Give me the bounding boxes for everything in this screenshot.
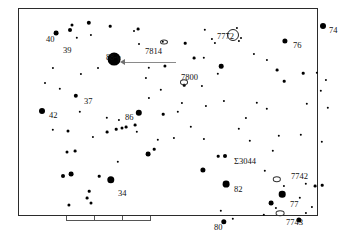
star-marker [115,128,118,131]
star-marker [134,124,137,127]
star-marker [74,150,77,153]
star-marker [204,29,206,31]
star-marker [184,42,187,45]
star-marker [107,176,114,183]
star-marker [314,185,317,188]
star-marker [87,21,91,25]
star-marker [217,155,220,158]
star-marker [269,201,274,206]
star-marker [76,37,78,39]
star-marker [223,154,227,158]
star-marker [283,80,286,83]
star-marker [300,134,302,136]
star-marker [253,53,255,55]
star-marker [125,126,128,129]
star-marker [279,191,286,198]
star-marker [80,73,82,75]
star-marker [153,148,156,151]
star-marker [163,64,166,67]
star-marker [256,102,258,104]
star-marker [193,57,196,60]
star-marker [79,111,81,113]
star-marker [181,102,183,104]
label-star-42: 42 [49,111,58,120]
star-marker [117,161,119,163]
label-star-39: 39 [63,46,72,55]
star-marker [203,57,205,59]
star-marker [306,103,308,105]
label-star-37: 37 [84,97,93,106]
star-marker [200,167,205,172]
annotation-arrow-head [120,59,125,65]
star-marker [275,207,277,209]
star-marker [223,100,225,102]
galaxy-marker [160,39,168,44]
star-marker [276,69,279,72]
star-marker [266,108,268,110]
star-marker [52,67,54,69]
star-marker [203,138,205,140]
scale-bar-tick [150,216,151,221]
label-ngc-7814: 7814 [145,47,162,56]
star-marker [97,67,99,69]
star-marker [305,183,307,185]
star-marker [320,90,322,92]
star-marker [137,28,140,31]
star-marker [236,27,238,29]
star-marker [66,151,69,154]
scale-bar-tick [94,216,95,221]
star-marker [118,119,120,121]
star-marker [245,117,247,119]
star-marker [327,107,329,109]
star-marker [305,212,307,214]
star-marker [316,72,318,74]
star-marker [98,175,101,178]
galaxy-marker [273,176,281,182]
label-star-40: 40 [46,35,55,44]
star-marker [272,150,274,152]
star-marker [240,37,242,39]
star-marker [121,127,124,130]
star-marker [238,128,240,130]
star-marker [92,136,94,138]
label-ngc-7800: 7800 [181,73,198,82]
label-star-74: 74 [329,26,338,35]
star-marker [88,190,91,193]
label-star-88-gamma: 88-γ [106,54,120,62]
star-marker [39,108,45,114]
label-double-star: Σ3044 [234,157,256,166]
star-marker [67,203,70,206]
star-marker [68,28,72,32]
scale-bar-tick [66,216,67,221]
star-marker [264,170,266,172]
star-marker [278,135,280,137]
star-marker [109,25,112,28]
star-marker [160,89,162,91]
star-marker [282,38,287,43]
star-marker [145,77,147,79]
star-marker [214,42,216,44]
star-marker [44,82,46,84]
star-marker [220,210,222,212]
star-marker [320,23,326,29]
star-marker [249,140,251,142]
star-marker [133,30,135,32]
label-ngc-7743: 7743 [286,218,303,227]
star-marker [106,131,109,134]
scale-bar [66,214,150,222]
star-marker [71,24,74,27]
label-star-80: 80 [214,223,223,232]
star-marker [217,73,219,75]
star-marker [61,174,65,178]
star-marker [148,67,150,69]
label-ngc-7742: 7742 [291,172,308,181]
star-marker [136,131,138,133]
star-marker [106,117,108,119]
star-marker [162,113,165,116]
star-marker [136,110,142,116]
star-marker [283,185,285,187]
star-marker [59,88,61,90]
star-marker [52,129,54,131]
label-ngc-7772: 7772 [217,32,234,41]
star-marker [232,218,234,220]
